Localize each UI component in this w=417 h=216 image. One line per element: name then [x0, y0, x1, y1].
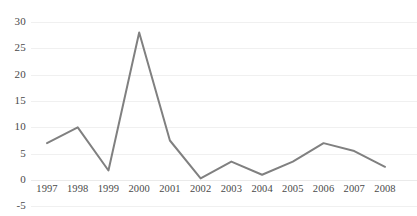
line-chart: 302520151050-5 1997199819992000200120022… [0, 0, 417, 216]
series-plot-area [0, 0, 417, 216]
data-series-line [47, 33, 385, 179]
